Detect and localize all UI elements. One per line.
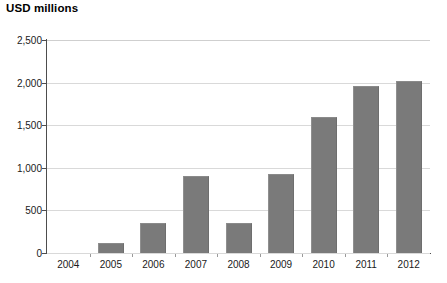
bar-2005 [98,243,124,253]
x-tick-label-2005: 2005 [100,259,122,270]
bar-2006 [140,223,166,253]
y-tick-label: 2,000 [17,77,42,88]
x-tick-mark [345,254,346,257]
gridline [47,253,430,254]
plot-area [47,40,430,253]
bar-2009 [268,174,294,253]
x-tick-label-2011: 2011 [355,259,377,270]
bar-2007 [183,176,209,253]
x-tick-mark [302,254,303,257]
x-tick-mark [175,254,176,257]
y-tick-label: 2,500 [17,35,42,46]
x-tick-label-2008: 2008 [227,259,249,270]
bar-2012 [396,81,422,253]
bar-chart: USD millions 05001,0001,5002,0002,500 20… [0,0,447,283]
x-tick-mark [387,254,388,257]
x-tick-mark [260,254,261,257]
y-axis: 05001,0001,5002,0002,500 [0,0,42,283]
bar-2010 [311,117,337,253]
bar-2011 [353,86,379,253]
x-tick-mark [217,254,218,257]
y-tick-label: 1,500 [17,120,42,131]
y-tick-label: 500 [25,205,42,216]
bar-2008 [226,223,252,253]
gridline [47,83,430,84]
x-tick-label-2006: 2006 [142,259,164,270]
x-tick-label-2012: 2012 [398,259,420,270]
x-tick-mark [132,254,133,257]
x-tick-mark [90,254,91,257]
y-tick-label: 1,000 [17,162,42,173]
x-tick-label-2009: 2009 [270,259,292,270]
gridline [47,40,430,41]
x-tick-label-2004: 2004 [57,259,79,270]
x-tick-label-2010: 2010 [312,259,334,270]
x-tick-label-2007: 2007 [185,259,207,270]
